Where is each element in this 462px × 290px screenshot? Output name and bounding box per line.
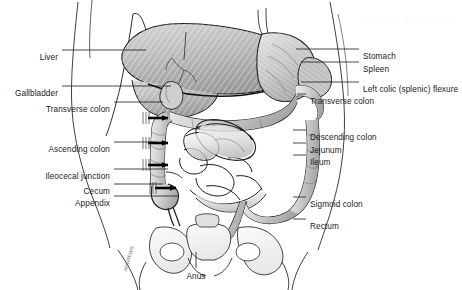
left-annotation-label: Ileocecal junction	[45, 172, 110, 181]
right-annotation-label: Spleen	[363, 65, 389, 74]
left-annotation-label: Appendix	[75, 199, 110, 208]
left-annotation-label: Ascending colon	[48, 145, 110, 154]
right-annotation-label: Left colic (splenic) flexure	[363, 85, 458, 94]
bottom-annotation-label: Anus	[186, 272, 205, 281]
right-annotation-label: Ileum	[310, 158, 331, 167]
left-annotation-label: Liver	[40, 53, 58, 62]
right-annotation-label: Descending colon	[310, 133, 377, 142]
right-annotation-label: Rectum	[310, 222, 339, 231]
ileocecal-junction	[166, 172, 182, 178]
pelvis	[118, 223, 308, 290]
cecum-appendix	[151, 184, 180, 226]
left-annotation-label: Gallbladder	[15, 89, 58, 98]
right-annotation-label: Sigmoid colon	[310, 200, 363, 209]
right-annotation-label: Transverse colon	[310, 97, 374, 106]
right-annotation-label: Jejunum	[310, 146, 342, 155]
ascending-colon	[151, 112, 173, 196]
anatomy-figure: LiverGallbladderTransverse colonAscendin…	[0, 0, 462, 290]
sacrum-top	[196, 214, 219, 227]
left-annotation-label: Cecum	[84, 187, 110, 196]
left-annotation-label: Transverse colon	[46, 105, 110, 114]
right-annotation-label: Stomach	[363, 52, 396, 61]
